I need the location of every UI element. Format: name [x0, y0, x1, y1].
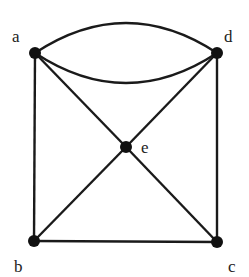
graph-diagram: adebc [0, 0, 249, 277]
node-label-c: c [228, 257, 236, 276]
edges [34, 23, 217, 242]
node-label-d: d [224, 27, 233, 46]
edge-e-c [126, 147, 217, 242]
edge-a-e [35, 53, 126, 147]
edge-b-c [34, 241, 217, 242]
node-label-e: e [141, 138, 149, 157]
edge-a-d-curve-0 [35, 23, 217, 53]
edge-a-d-curve-1 [35, 53, 217, 83]
node-d [211, 47, 223, 59]
node-a [29, 47, 41, 59]
edge-e-b [34, 147, 126, 241]
node-label-b: b [14, 257, 23, 276]
node-label-a: a [12, 27, 20, 46]
node-c [211, 236, 223, 248]
edge-a-b [34, 53, 35, 241]
node-e [120, 141, 132, 153]
node-b [28, 235, 40, 247]
edge-d-e [126, 53, 217, 147]
